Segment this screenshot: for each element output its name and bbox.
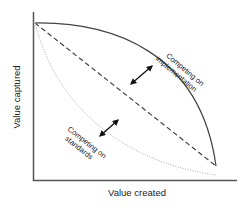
standards-label: Competing on standards bbox=[60, 124, 108, 167]
x-axis-label: Value created bbox=[108, 187, 166, 198]
value-diagram: Competing on implementation Competing on… bbox=[0, 0, 249, 210]
y-axis-label: Value captured bbox=[11, 65, 22, 128]
implementation-label: Competing on implementation bbox=[154, 47, 206, 95]
upper-double-arrow bbox=[131, 66, 152, 84]
standards-curve bbox=[35, 23, 216, 175]
